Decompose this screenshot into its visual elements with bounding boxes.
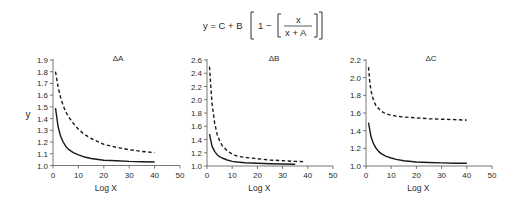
y-tick-label: 2.6	[191, 56, 203, 65]
y-tick-label: 1.4	[191, 136, 203, 145]
y-tick-label: 1.8	[191, 109, 203, 118]
y-tick-label: 1.0	[37, 162, 49, 171]
x-axis-label: Log X	[248, 183, 271, 193]
x-tick-label: 30	[278, 171, 287, 180]
figure: y = C + B 1 − x x + A 1.01.11.21.31.41.5…	[0, 0, 524, 207]
y-tick-label: 2.0	[191, 96, 203, 105]
y-tick-label: 1.4	[350, 127, 362, 136]
x-tick-label: 10	[387, 171, 396, 180]
series-solid	[210, 134, 296, 164]
x-axis-label: Log X	[95, 183, 118, 193]
y-tick-label: 1.6	[191, 122, 203, 131]
y-axis-label: y	[26, 109, 31, 120]
y-tick-label: 2.4	[191, 69, 203, 78]
x-tick-label: 40	[150, 171, 159, 180]
y-tick-label: 1.2	[191, 149, 203, 158]
y-tick-label: 1.9	[37, 56, 49, 65]
y-tick-label: 2.0	[350, 74, 362, 83]
x-tick-label: 50	[329, 171, 338, 180]
x-tick-label: 50	[488, 171, 497, 180]
x-tick-label: 20	[253, 171, 262, 180]
y-tick-label: 1.8	[350, 91, 362, 100]
x-tick-label: 10	[74, 171, 83, 180]
x-tick-label: 40	[303, 171, 312, 180]
x-axis-label: Log X	[407, 183, 430, 193]
x-tick-label: 0	[205, 171, 210, 180]
y-tick-label: 1.5	[37, 103, 49, 112]
panel-title: ΔA	[113, 54, 124, 63]
x-tick-label: 10	[228, 171, 237, 180]
panel-delta-b: 1.01.21.41.61.82.02.22.42.601020304050Lo…	[191, 54, 338, 193]
x-tick-label: 20	[99, 171, 108, 180]
y-tick-label: 1.4	[37, 115, 49, 124]
y-tick-label: 1.8	[37, 68, 49, 77]
panel-delta-c: 1.01.21.41.61.82.02.201020304050Log XΔC	[350, 54, 497, 193]
panel-title: ΔB	[269, 54, 280, 63]
y-tick-label: 1.0	[350, 162, 362, 171]
x-tick-label: 0	[51, 171, 56, 180]
series-dashed	[369, 67, 467, 120]
x-tick-label: 30	[125, 171, 134, 180]
y-tick-label: 1.1	[37, 150, 49, 159]
y-tick-label: 1.6	[350, 109, 362, 118]
x-tick-label: 50	[176, 171, 185, 180]
y-tick-label: 1.2	[350, 144, 362, 153]
x-tick-label: 30	[437, 171, 446, 180]
y-tick-label: 2.2	[191, 83, 203, 92]
series-solid	[369, 123, 467, 164]
series-dashed	[56, 72, 155, 153]
panel-title: ΔC	[425, 54, 436, 63]
x-tick-label: 0	[364, 171, 369, 180]
series-dashed	[210, 67, 306, 162]
x-tick-label: 40	[462, 171, 471, 180]
series-solid	[56, 108, 155, 162]
y-tick-label: 1.2	[37, 138, 49, 147]
y-tick-label: 1.7	[37, 79, 49, 88]
y-tick-label: 1.6	[37, 91, 49, 100]
x-tick-label: 20	[412, 171, 421, 180]
panel-delta-a: 1.01.11.21.31.41.51.61.71.81.90102030405…	[26, 54, 185, 193]
y-tick-label: 1.3	[37, 126, 49, 135]
y-tick-label: 1.0	[191, 162, 203, 171]
plots-area: 1.01.11.21.31.41.51.61.71.81.90102030405…	[0, 0, 524, 207]
y-tick-label: 2.2	[350, 56, 362, 65]
